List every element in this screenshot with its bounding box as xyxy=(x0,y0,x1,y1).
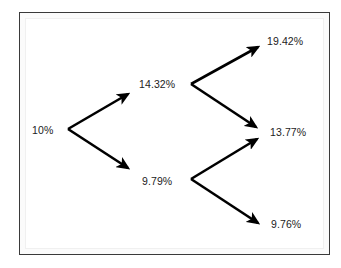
edge-up-upup xyxy=(191,47,258,84)
edge-root-down xyxy=(68,129,128,168)
node-label-down: 9.79% xyxy=(142,176,172,187)
node-label-up-up: 19.42% xyxy=(267,36,303,47)
node-label-root: 10% xyxy=(32,125,53,136)
edge-down-updown xyxy=(191,139,257,179)
edge-down-downdown xyxy=(191,179,258,223)
node-label-down-down: 9.76% xyxy=(271,219,301,230)
figure-screenshot: 10% 14.32% 9.79% 19.42% 13.77% 9.76% xyxy=(0,0,341,268)
edge-up-updown xyxy=(191,84,256,127)
edge-root-up xyxy=(68,94,128,129)
node-label-up: 14.32% xyxy=(139,79,175,90)
node-label-up-down: 13.77% xyxy=(270,127,306,138)
